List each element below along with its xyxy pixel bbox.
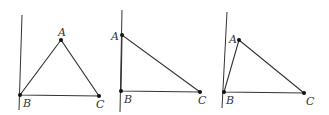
triangle-abc <box>224 40 304 93</box>
label-b: B <box>123 93 132 106</box>
point-b <box>119 89 123 93</box>
label-a: A <box>57 26 66 39</box>
label-b: B <box>22 97 31 110</box>
label-a: A <box>110 30 119 43</box>
triangle-abc <box>121 35 200 92</box>
label-c: C <box>306 95 315 108</box>
point-a <box>120 33 124 37</box>
label-b: B <box>225 94 234 107</box>
figure-1: ABC <box>18 15 105 111</box>
figure-2: ABC <box>110 10 207 112</box>
label-c: C <box>96 98 105 111</box>
point-b <box>18 93 22 97</box>
point-a <box>237 38 241 42</box>
triangle-abc <box>20 40 99 96</box>
figure-3: ABC <box>222 12 315 108</box>
label-c: C <box>198 94 207 107</box>
triangle-diagrams: ABCABCABC <box>0 0 329 115</box>
label-a: A <box>228 33 237 46</box>
